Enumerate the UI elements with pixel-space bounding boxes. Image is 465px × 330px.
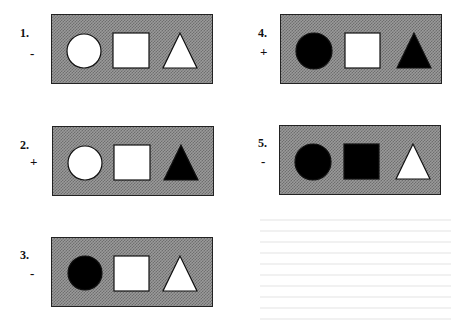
item-5-number: 5. <box>258 137 267 149</box>
item-3-number: 3. <box>20 249 29 261</box>
item-1-number: 1. <box>20 27 29 39</box>
circle-icon <box>68 146 102 180</box>
triangle-icon <box>397 33 431 68</box>
item-2-number: 2. <box>20 139 29 151</box>
item-3-shapes <box>52 238 214 308</box>
background-text-bleed <box>240 210 465 330</box>
triangle-icon <box>396 144 430 179</box>
item-4-shapes <box>281 15 443 85</box>
item-1-panel <box>51 14 213 84</box>
item-4-sign: + <box>260 46 267 58</box>
circle-icon <box>295 144 331 180</box>
item-1-shapes <box>52 15 214 85</box>
item-5-sign: - <box>261 156 265 168</box>
item-1-sign: - <box>30 48 34 60</box>
square-icon <box>114 145 150 180</box>
item-5-shapes <box>280 126 442 196</box>
triangle-icon <box>163 33 197 68</box>
item-5-panel <box>279 125 441 195</box>
item-2-shapes <box>53 127 215 197</box>
circle-icon <box>67 34 101 68</box>
item-3-panel <box>51 237 213 307</box>
square-icon <box>114 256 149 291</box>
item-4-number: 4. <box>258 27 267 39</box>
item-4-panel <box>280 14 442 84</box>
triangle-icon <box>164 145 198 180</box>
circle-icon <box>68 256 102 290</box>
item-3-sign: - <box>30 268 34 280</box>
circle-icon <box>296 33 332 69</box>
square-icon <box>344 144 379 179</box>
square-icon <box>113 33 149 68</box>
square-icon <box>345 33 380 68</box>
item-2-panel <box>52 126 214 196</box>
triangle-icon <box>163 256 197 291</box>
item-2-sign: + <box>30 156 37 168</box>
